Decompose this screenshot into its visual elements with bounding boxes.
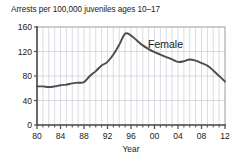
x-axis-tick-label: 96 [126, 131, 136, 141]
x-axis-tick-labels: 808488929600040812 [32, 131, 230, 141]
x-axis-tick-label: 88 [79, 131, 89, 141]
chart-figure: Arrests per 100,000 juveniles ages 10–17… [0, 0, 241, 158]
y-axis-tick-label: 120 [18, 47, 33, 57]
y-axis-tick-label: 80 [22, 71, 32, 81]
x-axis-tick-label: 08 [197, 131, 207, 141]
x-axis-tick-label: 84 [56, 131, 66, 141]
series-label-female: Female [148, 38, 183, 50]
x-axis-tick-label: 12 [220, 131, 230, 141]
x-axis-title: Year [123, 144, 140, 154]
y-axis-tick-labels: 04080120160 [18, 22, 33, 130]
line-chart-plot: 04080120160 808488929600040812 Female Ye… [0, 0, 241, 158]
y-axis-tick-label: 160 [18, 22, 33, 32]
x-axis-tick-label: 04 [173, 131, 183, 141]
x-axis-tick-label: 00 [150, 131, 160, 141]
x-axis-tick-label: 80 [32, 131, 42, 141]
y-axis-tick-label: 0 [27, 120, 32, 130]
x-axis-tick-label: 92 [103, 131, 113, 141]
y-axis-tick-label: 40 [22, 96, 32, 106]
